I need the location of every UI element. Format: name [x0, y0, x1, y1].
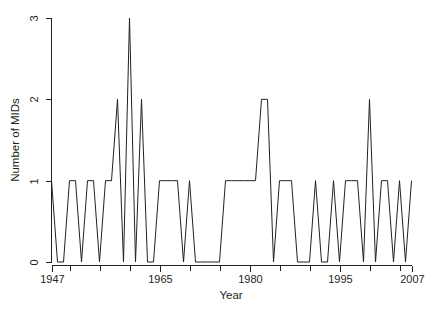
chart-figure: 0123 19471965198019952007 Year Number of…: [0, 0, 427, 312]
x-tick-label: 1995: [328, 273, 352, 285]
x-tick-label: 1947: [40, 273, 64, 285]
y-tick-labels: 0123: [28, 15, 40, 265]
x-tick-label: 1980: [238, 273, 262, 285]
y-axis-title: Number of MIDs: [9, 98, 21, 182]
series-line-number-of-mids: [52, 18, 412, 262]
y-tick-marks: [46, 19, 52, 263]
x-tick-labels: 19471965198019952007: [40, 273, 424, 285]
x-tick-marks: [53, 266, 413, 273]
y-tick-label: 2: [28, 96, 40, 102]
x-tick-label: 2007: [400, 273, 424, 285]
line-chart-plot: 0123 19471965198019952007 Year Number of…: [0, 0, 427, 312]
y-tick-label: 0: [28, 259, 40, 265]
x-axis-title: Year: [219, 289, 242, 301]
y-tick-label: 3: [28, 15, 40, 21]
x-tick-label: 1965: [148, 273, 172, 285]
y-tick-label: 1: [28, 178, 40, 184]
